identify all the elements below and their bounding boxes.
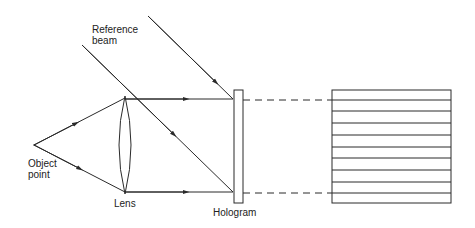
hologram-label: Hologram xyxy=(213,207,256,218)
lens-shape xyxy=(119,96,131,194)
object-point xyxy=(33,144,35,146)
object-point-label: Object point xyxy=(28,158,57,180)
object-ray-upper xyxy=(34,98,125,145)
reference-beam-label: Reference beam xyxy=(92,24,138,46)
reference-beam-lower xyxy=(82,45,233,192)
holography-diagram xyxy=(0,0,475,228)
hologram-plate xyxy=(234,90,243,203)
fringe-pattern xyxy=(332,90,451,203)
lens-label: Lens xyxy=(114,198,136,209)
reference-beam-upper xyxy=(148,16,233,99)
